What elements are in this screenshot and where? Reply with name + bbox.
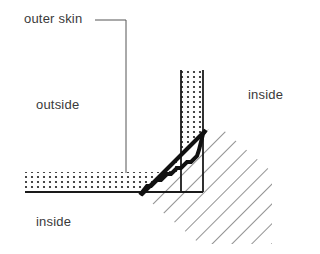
outer-skin-leader — [95, 20, 126, 173]
outer-skin-label: outer skin — [24, 11, 82, 26]
inside-bottom-label: inside — [36, 214, 71, 229]
hatched-structure — [143, 122, 272, 250]
outside-label: outside — [36, 97, 79, 112]
inside-right-label: inside — [248, 87, 283, 102]
